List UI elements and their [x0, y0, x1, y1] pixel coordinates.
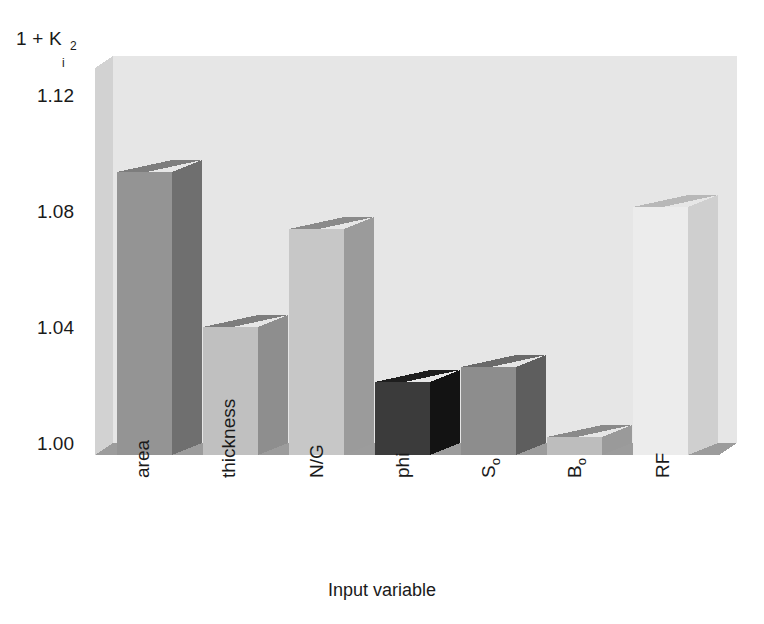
plot-left-wall: [95, 56, 113, 455]
bar-phi: [375, 370, 460, 455]
x-tick-label-bo-subscript: o: [574, 458, 589, 465]
x-tick-label-thickness: thickness: [218, 399, 240, 478]
x-tick-label-so: So: [478, 458, 503, 478]
bar-rf: [633, 195, 718, 455]
x-tick-label-phi: phi: [392, 453, 414, 478]
x-tick-label-ng: N/G: [306, 444, 328, 478]
x-tick-label-so-base: S: [478, 465, 499, 478]
x-tick-label-rf: RF: [652, 453, 674, 478]
bar-chart-figure: 1 + Ki2 1.12 1.08 1.04 1.00: [0, 0, 764, 624]
bar-ng: [289, 217, 374, 455]
x-tick-label-bo: Bo: [564, 458, 589, 478]
bar-thickness: [203, 315, 288, 455]
plot-area: [0, 0, 764, 624]
x-tick-label-area: area: [132, 440, 154, 478]
bar-so: [461, 355, 546, 455]
x-tick-label-bo-base: B: [564, 465, 585, 478]
x-tick-label-so-subscript: o: [488, 458, 503, 465]
x-axis-title: Input variable: [0, 580, 764, 601]
bar-area: [117, 160, 202, 455]
